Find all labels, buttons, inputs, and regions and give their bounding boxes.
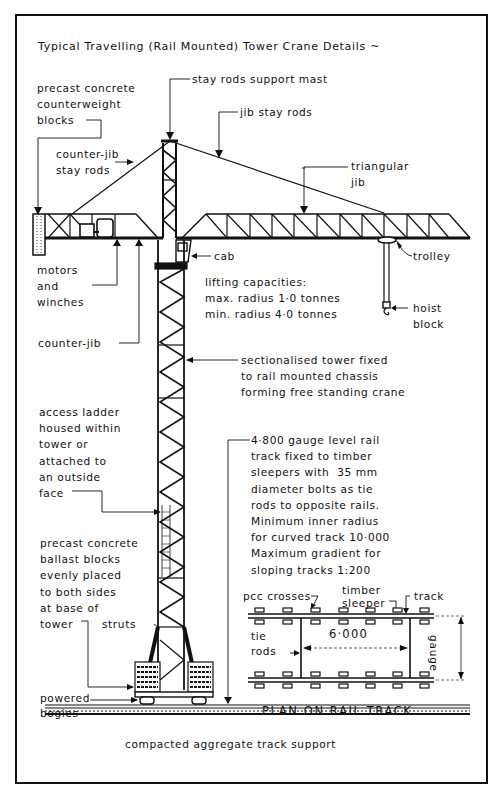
label-stay-rods-support-mast: stay rods support mast: [192, 71, 328, 87]
sectionalised-tower: [158, 240, 184, 690]
counter-jib-structure: [33, 214, 163, 255]
label-timber-sleeper: timber sleeper: [342, 584, 385, 610]
label-triangular-jib: triangular jib: [351, 158, 409, 190]
label-track: track: [414, 588, 444, 604]
label-pcc-crosses: pcc crosses: [243, 588, 311, 604]
label-precast-counterweight-blocks: precast concrete counterweight blocks: [37, 80, 135, 129]
label-access-ladder: access ladder housed within tower or att…: [39, 404, 121, 501]
label-rail-track-note: 4·800 gauge level rail track fixed to ti…: [251, 432, 390, 578]
struts-and-ballast: [135, 627, 213, 704]
label-cab: cab: [214, 248, 235, 264]
label-motors-and-winches: motors and winches: [37, 262, 84, 311]
label-trolley: trolley: [413, 248, 451, 264]
label-counter-jib-stay-rods: counter-jib stay rods: [56, 146, 119, 178]
label-lifting-capacities: lifting capacities: max. radius 1·0 tonn…: [205, 274, 340, 323]
label-gauge: gauge: [428, 635, 440, 672]
label-powered-bogies: powered bogies: [40, 691, 90, 721]
label-tie-rods: tie rods: [251, 629, 276, 659]
label-struts: struts: [102, 616, 136, 632]
label-hoist-block: hoist block: [413, 300, 444, 332]
label-span-dimension: 6·000: [329, 627, 368, 641]
cab-structure: [155, 240, 191, 269]
label-compacted-aggregate: compacted aggregate track support: [125, 736, 336, 752]
triangular-jib-structure: [176, 214, 470, 238]
label-counter-jib: counter-jib: [38, 335, 101, 351]
trolley-and-hoist: [378, 237, 396, 315]
label-jib-stay-rods: jib stay rods: [240, 104, 312, 120]
plan-title: PLAN ON RAIL TRACK: [262, 704, 412, 718]
mast-top: [161, 141, 178, 238]
label-sectionalised-tower: sectionalised tower fixed to rail mounte…: [241, 352, 405, 401]
